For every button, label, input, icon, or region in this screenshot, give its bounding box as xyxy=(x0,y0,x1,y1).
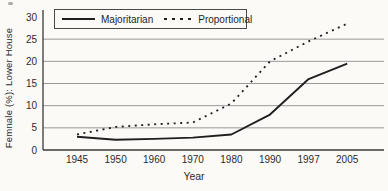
scan-artifact xyxy=(8,2,13,5)
series-line-proportional xyxy=(77,24,347,135)
legend-label-majoritarian: Majoritarian xyxy=(101,14,153,25)
y-tick-label: 0 xyxy=(31,145,37,156)
x-tick-label: 1960 xyxy=(143,154,166,165)
x-tick-label: 1945 xyxy=(66,154,89,165)
x-tick-label: 1990 xyxy=(259,154,282,165)
y-tick-label: 20 xyxy=(26,56,38,67)
x-tick-label: 1970 xyxy=(182,154,205,165)
legend-label-proportional: Proportional xyxy=(198,14,252,25)
y-tick-label: 30 xyxy=(26,12,38,23)
y-tick-label: 10 xyxy=(26,100,38,111)
y-axis-title: Femnale (%): Lower House xyxy=(3,13,15,163)
x-axis-title: Year xyxy=(0,170,388,182)
y-tick-label: 15 xyxy=(26,78,38,89)
legend: Majoritarian Proportional xyxy=(54,9,247,29)
y-tick-label: 25 xyxy=(26,34,38,45)
series-line-majoritarian xyxy=(77,64,347,140)
x-tick-label: 1980 xyxy=(220,154,243,165)
y-tick-label: 5 xyxy=(31,122,37,133)
x-tick-label: 1997 xyxy=(297,154,320,165)
line-chart-figure: 0510152025301945195019601970198019901997… xyxy=(0,0,388,191)
proportional-dotted-line-icon xyxy=(164,18,192,20)
x-tick-label: 1950 xyxy=(104,154,127,165)
majoritarian-solid-line-icon xyxy=(62,18,95,20)
x-tick-label: 2005 xyxy=(336,154,359,165)
